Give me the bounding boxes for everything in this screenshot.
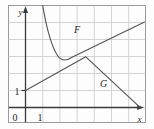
y-axis-label: y: [18, 7, 23, 17]
curve-f-label: F: [73, 24, 81, 35]
graph-svg: y x 0 1 1 F G: [0, 0, 154, 129]
x-axis-label: x: [137, 114, 142, 124]
x-tick-label-1: 1: [38, 112, 43, 123]
origin-label: 0: [13, 112, 18, 123]
y-tick-label-1: 1: [15, 86, 20, 97]
graph-figure: y x 0 1 1 F G: [0, 0, 154, 129]
curve-g-label: G: [100, 78, 107, 89]
